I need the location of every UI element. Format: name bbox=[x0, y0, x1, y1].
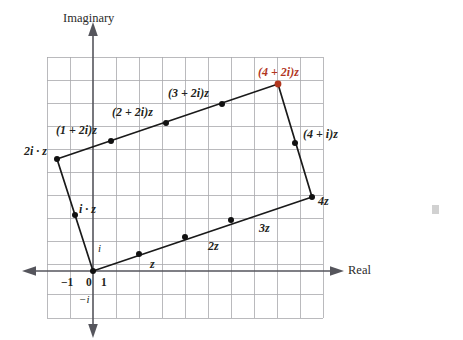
tick-label-minus-one: −1 bbox=[61, 277, 73, 289]
point-3z bbox=[228, 217, 234, 223]
point-3-plus-2i-z bbox=[219, 101, 225, 107]
vertex-label-2z: 2z bbox=[208, 240, 219, 252]
imaginary-axis-arrow-down bbox=[88, 324, 98, 338]
point-2-plus-2i-z bbox=[163, 120, 169, 126]
vertex-label-4-plus-i-z: (4 + i)z bbox=[303, 128, 338, 140]
point-1-plus-2i-z bbox=[108, 138, 114, 144]
complex-plane-svg bbox=[0, 0, 463, 340]
vertex-label-3z: 3z bbox=[259, 222, 270, 234]
imaginary-axis-label: Imaginary bbox=[63, 12, 114, 25]
vertex-label-4z: 4z bbox=[318, 195, 329, 207]
point-4z bbox=[309, 194, 315, 200]
vertex-label-2i-z: 2i · z bbox=[24, 145, 47, 157]
tick-label-zero: 0 bbox=[86, 277, 92, 289]
vertex-label-1-plus-2i-z: (1 + 2i)z bbox=[56, 124, 97, 136]
tick-label-one: 1 bbox=[101, 277, 107, 289]
point-origin bbox=[90, 268, 96, 274]
parallelogram-outline bbox=[57, 84, 312, 271]
point-i-z bbox=[72, 212, 78, 218]
vertex-label-3-plus-2i-z: (3 + 2i)z bbox=[168, 87, 209, 99]
point-4-plus-i-z bbox=[292, 140, 298, 146]
real-axis-label: Real bbox=[348, 264, 371, 277]
vertex-label-z: z bbox=[150, 258, 155, 270]
point-2z bbox=[182, 234, 188, 240]
point-2i-z bbox=[54, 156, 60, 162]
vertex-label-i-z: i · z bbox=[79, 203, 96, 215]
figure-canvas: Imaginary Real 0 −1 1 i −i 2i · z (1 + 2… bbox=[0, 0, 463, 340]
vertex-label-4-plus-2i-z: (4 + 2i)z bbox=[258, 66, 299, 78]
point-z bbox=[136, 251, 142, 257]
real-axis-arrow-left bbox=[22, 266, 36, 276]
vertex-label-2-plus-2i-z: (2 + 2i)z bbox=[112, 106, 153, 118]
scan-artifact-mark bbox=[432, 205, 439, 214]
tick-label-i: i bbox=[98, 243, 101, 254]
real-axis-arrow-right bbox=[330, 266, 344, 276]
point-4-plus-2i-z-highlight bbox=[275, 81, 282, 88]
tick-label-minus-i: −i bbox=[79, 294, 89, 305]
